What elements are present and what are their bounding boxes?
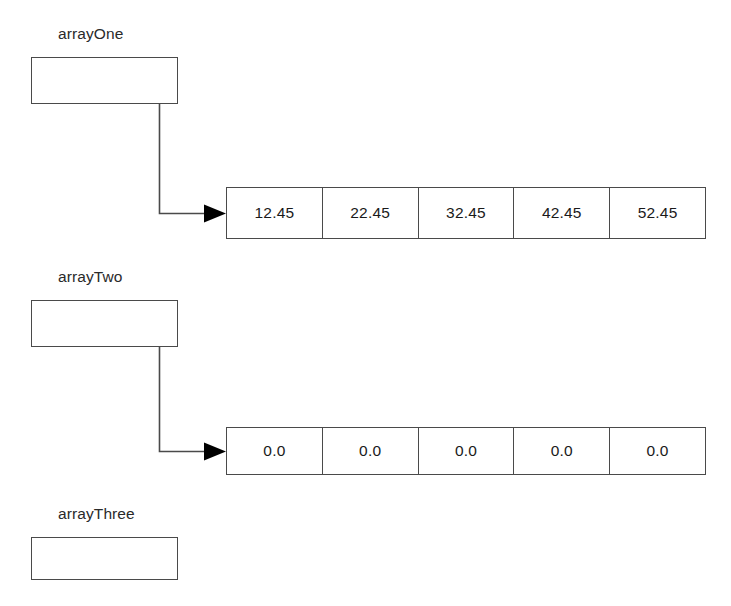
array-cell: 12.45: [227, 188, 323, 238]
array-cell: 0.0: [419, 428, 515, 474]
array-cell: 42.45: [514, 188, 610, 238]
reference-box-array-two: [31, 300, 178, 347]
array-cell: 0.0: [610, 428, 705, 474]
array-cell: 22.45: [323, 188, 419, 238]
arrow-head-array-two: [204, 443, 226, 461]
reference-box-array-three: [31, 537, 178, 580]
array-reference-diagram: arrayOne 12.45 22.45 32.45 42.45 52.45 a…: [0, 0, 731, 606]
array-cell: 0.0: [227, 428, 323, 474]
arrow-head-array-one: [204, 205, 226, 223]
array-cell: 0.0: [514, 428, 610, 474]
array-cell: 0.0: [323, 428, 419, 474]
label-array-two: arrayTwo: [58, 269, 123, 285]
array-row-array-two: 0.0 0.0 0.0 0.0 0.0: [226, 427, 706, 475]
label-array-one: arrayOne: [58, 26, 123, 42]
reference-box-array-one: [31, 57, 178, 104]
array-cell: 32.45: [419, 188, 515, 238]
array-row-array-one: 12.45 22.45 32.45 42.45 52.45: [226, 187, 706, 239]
array-cell: 52.45: [610, 188, 705, 238]
label-array-three: arrayThree: [58, 506, 135, 522]
